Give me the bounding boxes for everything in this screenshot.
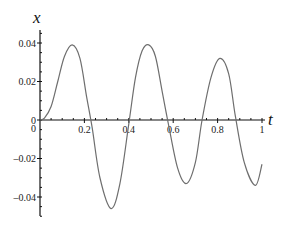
x-tick-label: 0.2 bbox=[78, 124, 91, 135]
y-axis: 0.040.020–0.02–0.04 bbox=[13, 30, 43, 216]
series-line bbox=[40, 45, 262, 209]
x-tick-label: 0.8 bbox=[211, 124, 224, 135]
x-axis-label: t bbox=[268, 110, 274, 129]
y-tick-label: 0.02 bbox=[19, 76, 37, 87]
line-chart: 0.040.020–0.02–0.04 0.20.40.60.810 t x bbox=[0, 0, 292, 231]
x-axis: 0.20.40.60.810 bbox=[31, 118, 265, 135]
y-axis-label: x bbox=[32, 8, 41, 27]
x-tick-label: 1 bbox=[260, 124, 265, 135]
y-tick-label: –0.04 bbox=[13, 192, 37, 203]
y-tick-label: 0.04 bbox=[19, 38, 37, 49]
series-group bbox=[40, 45, 262, 209]
origin-label: 0 bbox=[31, 123, 36, 134]
y-tick-label: –0.02 bbox=[13, 153, 37, 164]
